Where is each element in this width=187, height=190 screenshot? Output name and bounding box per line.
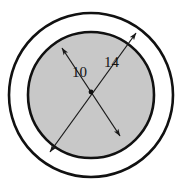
- concentric-circles-diagram: 10 14: [0, 0, 187, 190]
- figure-container: 10 14: [0, 0, 187, 190]
- center-point-marker: [89, 90, 94, 95]
- outer-diameter-label: 14: [104, 54, 120, 70]
- inner-diameter-label: 10: [72, 64, 87, 80]
